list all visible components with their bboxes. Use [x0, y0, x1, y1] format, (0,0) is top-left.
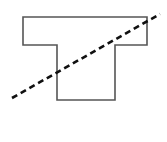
t-shape-polygon — [23, 17, 147, 100]
geometry-diagram — [0, 0, 167, 142]
dashed-diagonal-line — [12, 14, 160, 98]
